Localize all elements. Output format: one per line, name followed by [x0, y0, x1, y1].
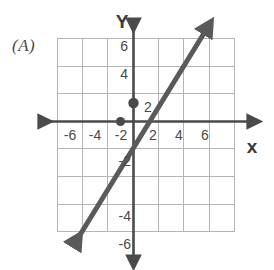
y-tick-label: 6: [120, 38, 128, 54]
x-tick-label: 6: [201, 127, 209, 143]
x-tick-label: -2: [115, 127, 128, 143]
point-x-intercept: [116, 117, 125, 126]
y-tick-label: 2: [144, 99, 152, 115]
graph-figure: (A): [0, 0, 274, 270]
point-y-intercept: [128, 98, 138, 108]
x-tick-label: 4: [175, 127, 183, 143]
y-tick-label: -2: [119, 153, 132, 169]
x-tick-label: -6: [64, 127, 77, 143]
y-tick-label: -4: [119, 208, 132, 224]
coordinate-plane: -6 -4 -2 2 4 6 6 4 2 -2 -4 -6 x Y: [0, 0, 274, 270]
x-axis-label: x: [247, 136, 258, 157]
y-axis-label: Y: [116, 11, 129, 32]
x-tick-label: -4: [89, 127, 102, 143]
x-tick-label: 2: [149, 127, 157, 143]
y-tick-label: 4: [120, 66, 128, 82]
y-tick-label: -6: [119, 236, 132, 252]
